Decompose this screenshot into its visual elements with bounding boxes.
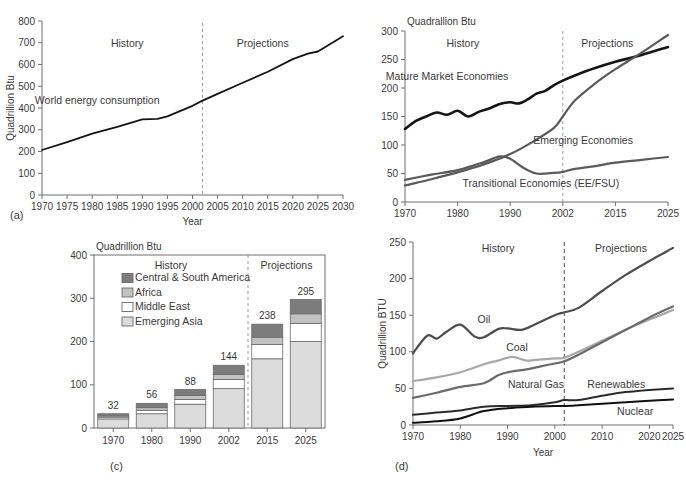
y-tick-label: 400 [18, 103, 35, 114]
panel-d-annotation-1: Projections [595, 242, 647, 254]
x-tick-label: 1970 [102, 435, 125, 446]
bar-segment [213, 389, 244, 428]
bar-total-label: 295 [297, 286, 314, 297]
bar-segment [98, 414, 129, 416]
x-tick-label: 2025 [295, 435, 318, 446]
panel-a-annotation-1: Projections [237, 37, 289, 49]
x-tick-label: 1990 [131, 201, 154, 212]
x-tick-label: 1980 [141, 435, 164, 446]
y-tick-label: 500 [18, 81, 35, 92]
panel-d-annotation-3: Coal [506, 341, 528, 353]
y-tick-label: 600 [18, 59, 35, 70]
x-tick-label: 1985 [106, 201, 129, 212]
y-tick-label: 100 [70, 379, 87, 390]
y-tick-label: 50 [387, 168, 399, 179]
panel-d-xlabel: Year [533, 447, 554, 458]
x-tick-label: 2002 [218, 435, 241, 446]
y-tick-label: 100 [389, 346, 406, 357]
y-tick-label: 250 [389, 237, 406, 248]
y-tick-label: 800 [18, 16, 35, 27]
x-tick-label: 1980 [81, 201, 104, 212]
bar-segment [290, 323, 321, 341]
y-tick-label: 50 [395, 383, 407, 394]
y-tick-label: 100 [18, 168, 35, 179]
panel-c-title: Quadrillion Btu [96, 241, 162, 252]
bar-segment [290, 300, 321, 314]
panel-d-annotation-0: History [482, 242, 515, 254]
y-tick-label: 100 [381, 140, 398, 151]
bar-segment [175, 404, 206, 428]
x-tick-label: 2025 [657, 208, 680, 219]
panel-a-ylabel: Quadrillion Btu [5, 75, 16, 141]
x-tick-label: 2000 [544, 431, 567, 442]
panel-b-annotation-0: History [447, 37, 480, 49]
x-tick-label: 1970 [394, 208, 417, 219]
bar-segment [175, 396, 206, 400]
y-tick-label: 300 [70, 293, 87, 304]
bar-segment [136, 403, 167, 407]
bar-segment [136, 410, 167, 413]
x-tick-label: 1990 [496, 431, 519, 442]
x-tick-label: 2010 [232, 201, 255, 212]
x-tick-label: 1980 [446, 208, 469, 219]
bar-total-label: 32 [108, 400, 120, 411]
bar-segment [175, 399, 206, 404]
y-tick-label: 0 [400, 420, 406, 431]
legend-swatch [122, 288, 133, 297]
x-tick-label: 1975 [56, 201, 79, 212]
x-tick-label: 1970 [31, 201, 54, 212]
x-tick-label: 2002 [552, 208, 575, 219]
x-tick-label: 1990 [499, 208, 522, 219]
x-tick-label: 2025 [662, 431, 685, 442]
y-tick-label: 150 [381, 111, 398, 122]
x-tick-label: 2005 [206, 201, 229, 212]
x-tick-label: 1990 [179, 435, 202, 446]
panel-label-c: (c) [110, 460, 123, 472]
panel-d-ylabel: Quadrillion BTU [377, 298, 388, 369]
panel-label-d: (d) [395, 460, 408, 472]
legend-swatch [122, 303, 133, 312]
x-tick-label: 2030 [332, 201, 355, 212]
x-tick-label: 2015 [604, 208, 627, 219]
bar-total-label: 144 [220, 351, 237, 362]
y-tick-label: 250 [381, 54, 398, 65]
legend-label-1: Africa [135, 286, 162, 298]
panel-b-title: Quadrallion Btu [407, 16, 476, 27]
bar-segment [252, 345, 283, 359]
panel-a-xlabel: Year [182, 216, 203, 227]
y-tick-label: 300 [381, 26, 398, 37]
bar-segment [213, 365, 244, 374]
bar-segment [252, 337, 283, 344]
x-tick-label: 2020 [282, 201, 305, 212]
panel-d-annotation-5: Renewables [587, 378, 645, 390]
bar-segment [136, 414, 167, 428]
bar-segment [290, 342, 321, 429]
panel-b-annotation-1: Projections [581, 37, 633, 49]
x-tick-label: 2020 [638, 431, 661, 442]
legend-swatch [122, 274, 133, 283]
y-tick-label: 200 [381, 83, 398, 94]
x-tick-label: 2015 [257, 201, 280, 212]
panel-b-annotation-3: Emerging Economies [533, 134, 633, 146]
bar-segment [252, 359, 283, 428]
figure-canvas: 0100200300400500600700800197019751980198… [0, 0, 686, 485]
x-tick-label: 2010 [591, 431, 614, 442]
bar-segment [213, 380, 244, 389]
bar-total-label: 56 [146, 389, 158, 400]
y-tick-label: 0 [29, 190, 35, 201]
panel-c-annotation-history: History [155, 259, 188, 271]
panel-d-annotation-4: Natural Gas [508, 378, 564, 390]
panel-b-annotation-2: Mature Market Economies [386, 70, 509, 82]
y-tick-label: 200 [18, 146, 35, 157]
bar-segment [98, 419, 129, 428]
y-tick-label: 0 [81, 423, 87, 434]
bar-total-label: 238 [259, 310, 276, 321]
y-tick-label: 200 [389, 273, 406, 284]
y-tick-label: 400 [70, 250, 87, 261]
x-tick-label: 2000 [181, 201, 204, 212]
panel-d-annotation-6: Nuclear [617, 405, 654, 417]
panel-d-annotation-2: Oil [477, 313, 490, 325]
y-tick-label: 0 [392, 197, 398, 208]
x-tick-label: 1995 [156, 201, 179, 212]
panel-a-annotation-2: World energy consumption [35, 94, 160, 106]
